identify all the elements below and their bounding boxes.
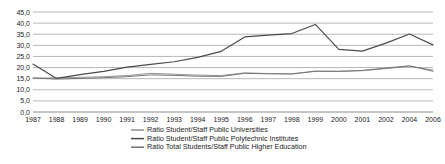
chart-legend: Ratio Student/Staff Public UniversitiesR… xyxy=(131,125,307,151)
x-axis-tick-label: 2001 xyxy=(355,116,371,123)
x-axis-tick-label: 1987 xyxy=(25,116,41,123)
chart-container: 0,05,010,015,020,025,030,035,040,045,0 1… xyxy=(0,0,445,164)
y-axis-tick-label: 25,0 xyxy=(16,53,30,60)
x-axis-tick-label: 2004 xyxy=(402,116,418,123)
x-axis-tick-label: 2000 xyxy=(331,116,347,123)
x-axis-tick-labels: 1987198819891990199119921993199419951996… xyxy=(25,116,441,123)
y-axis-tick-label: 20,0 xyxy=(16,64,30,71)
y-axis-tick-labels: 0,05,010,015,020,025,030,035,040,045,0 xyxy=(16,9,30,116)
data-series-group xyxy=(33,24,433,79)
x-axis-tick-label: 1991 xyxy=(119,116,135,123)
x-axis-tick-label: 2002 xyxy=(378,116,394,123)
x-axis-tick-label: 1990 xyxy=(96,116,112,123)
x-axis-tick-label: 1998 xyxy=(284,116,300,123)
x-axis-tick-label: 1994 xyxy=(190,116,206,123)
y-axis-tick-label: 10,0 xyxy=(16,86,30,93)
x-axis-tick-label: 1992 xyxy=(143,116,159,123)
x-axis-tick-label: 2006 xyxy=(425,116,441,123)
y-axis-tick-label: 5,0 xyxy=(20,97,30,104)
x-axis-tick-label: 1999 xyxy=(308,116,324,123)
series-line-1 xyxy=(33,24,433,78)
x-axis-tick-label: 1995 xyxy=(213,116,229,123)
x-axis-tick-label: 1989 xyxy=(72,116,88,123)
y-axis-tick-label: 35,0 xyxy=(16,31,30,38)
series-line-0 xyxy=(33,66,433,78)
gridlines-group xyxy=(33,12,433,112)
y-axis-tick-label: 15,0 xyxy=(16,75,30,82)
legend-label-2: Ratio Total Students/Staff Public Higher… xyxy=(147,142,307,151)
y-axis-tick-label: 45,0 xyxy=(16,9,30,16)
y-axis-tick-label: 0,0 xyxy=(20,109,30,116)
x-axis-tick-label: 1988 xyxy=(49,116,65,123)
x-axis-tick-label: 1997 xyxy=(261,116,277,123)
y-axis-tick-label: 30,0 xyxy=(16,42,30,49)
x-axis-tick-label: 1996 xyxy=(237,116,253,123)
y-axis-tick-label: 40,0 xyxy=(16,20,30,27)
x-axis-tick-label: 1993 xyxy=(166,116,182,123)
line-chart: 0,05,010,015,020,025,030,035,040,045,0 1… xyxy=(0,0,445,164)
